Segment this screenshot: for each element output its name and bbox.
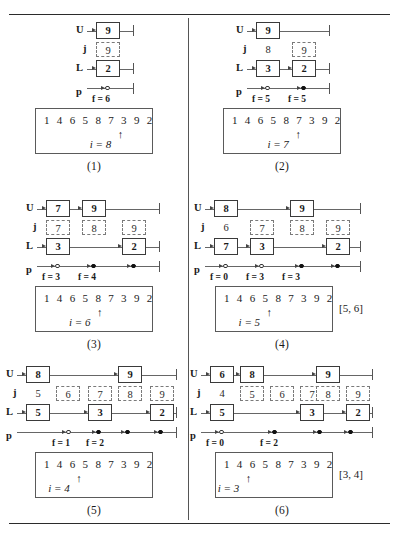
pointer-diagram: UjLp7978932f = 3f = 4 bbox=[0, 194, 188, 286]
j-cell: 6 bbox=[214, 220, 238, 235]
line-end-tick bbox=[159, 203, 160, 214]
connector-line bbox=[17, 432, 66, 433]
panel-grid: UjLp992f = 61 4 6 5 8 7 3 9 2↑i = 8(1)Uj… bbox=[0, 16, 399, 522]
row-label-u: U bbox=[236, 24, 244, 35]
p-marker-filled bbox=[272, 430, 277, 435]
line-end-tick bbox=[360, 241, 361, 252]
line-end-tick bbox=[329, 63, 330, 74]
panel-caption: (2) bbox=[188, 160, 376, 172]
array-state: 1 4 6 5 8 7 3 9 2↑i = 3[3, 4] bbox=[188, 452, 376, 504]
connector-line bbox=[112, 413, 150, 414]
array-index-arrow-icon: ↑ bbox=[97, 308, 103, 316]
u-cell: 6 bbox=[210, 366, 234, 383]
pointer-diagram: UjLp98932f = 5f = 5 bbox=[188, 16, 376, 108]
figure-panel-3: UjLp7978932f = 3f = 41 4 6 5 8 7 3 9 2↑i… bbox=[0, 194, 188, 350]
line-end-tick bbox=[176, 427, 177, 438]
line-end-tick bbox=[159, 261, 160, 272]
row-label-j: j bbox=[243, 43, 247, 54]
array-index-label: i = 4 bbox=[48, 482, 69, 494]
line-end-tick bbox=[360, 203, 361, 214]
j-cell: 9 bbox=[96, 42, 120, 57]
p-marker-filled bbox=[299, 264, 304, 269]
array-state: 1 4 6 5 8 7 3 9 2↑i = 4 bbox=[0, 452, 188, 504]
p-marker-filled bbox=[317, 430, 322, 435]
p-marker-filled bbox=[131, 264, 136, 269]
line-end-tick bbox=[159, 241, 160, 252]
u-cell: 7 bbox=[46, 200, 70, 217]
connector-line bbox=[340, 266, 360, 267]
line-end-tick bbox=[372, 407, 373, 418]
f-value-label: f = 5 bbox=[252, 94, 270, 104]
p-marker-open bbox=[265, 86, 270, 91]
f-value-label: f = 1 bbox=[52, 438, 70, 448]
connector-line bbox=[106, 209, 159, 210]
connector-line bbox=[50, 413, 88, 414]
connector-line bbox=[306, 88, 329, 89]
panel-caption: (6) bbox=[188, 504, 376, 516]
p-marker-filled bbox=[91, 264, 96, 269]
f-value-label: f = 4 bbox=[78, 272, 96, 282]
range-annotation: [3, 4] bbox=[339, 468, 363, 480]
panel-caption: (4) bbox=[188, 338, 376, 350]
row-label-u: U bbox=[190, 368, 198, 379]
f-value-label: f = 0 bbox=[206, 438, 224, 448]
array-index-label: i = 5 bbox=[239, 316, 260, 328]
j-cell: 7 bbox=[250, 220, 274, 235]
j-cell: 9 bbox=[292, 42, 316, 57]
connector-line bbox=[350, 247, 360, 248]
row-label-j: j bbox=[197, 387, 201, 398]
array-state: 1 4 6 5 8 7 3 9 2↑i = 5[5, 6] bbox=[188, 286, 376, 338]
j-cell: 5 bbox=[240, 386, 264, 401]
l-cell: 3 bbox=[300, 404, 324, 421]
j-cell: 9 bbox=[122, 220, 146, 235]
row-label-p: p bbox=[76, 86, 82, 97]
row-label-p: p bbox=[194, 264, 200, 275]
u-cell: 9 bbox=[316, 366, 340, 383]
array-index-label: i = 3 bbox=[218, 482, 239, 494]
connector-line bbox=[274, 247, 326, 248]
f-value-label: f = 6 bbox=[92, 94, 110, 104]
row-label-l: L bbox=[26, 240, 33, 251]
l-cell: 5 bbox=[26, 404, 50, 421]
array-index-arrow-icon: ↑ bbox=[118, 130, 124, 138]
connector-line bbox=[314, 209, 360, 210]
row-label-u: U bbox=[76, 24, 84, 35]
j-cell: 6 bbox=[56, 386, 80, 401]
figure-panel-6: UjLp689456789532f = 0f = 21 4 6 5 8 7 3 … bbox=[188, 360, 376, 516]
f-value-label: f = 2 bbox=[260, 438, 278, 448]
p-marker-filled bbox=[158, 430, 163, 435]
l-cell: 2 bbox=[346, 404, 370, 421]
array-values: 1 4 6 5 8 7 3 9 2 bbox=[44, 458, 155, 470]
connector-line bbox=[96, 266, 131, 267]
array-index-label: i = 8 bbox=[90, 138, 111, 150]
p-marker-open bbox=[259, 264, 264, 269]
j-cell: 8 bbox=[118, 386, 142, 401]
p-marker-filled bbox=[335, 264, 340, 269]
j-cell: 7 bbox=[88, 386, 112, 401]
connector-line bbox=[142, 375, 176, 376]
u-cell: 8 bbox=[240, 366, 264, 383]
row-label-p: p bbox=[6, 430, 12, 441]
row-label-l: L bbox=[236, 62, 243, 73]
line-end-tick bbox=[133, 63, 134, 74]
u-cell: 8 bbox=[26, 366, 50, 383]
panel-caption: (5) bbox=[0, 504, 188, 516]
connector-line bbox=[50, 375, 118, 376]
j-cell: 8 bbox=[82, 220, 106, 235]
l-cell: 3 bbox=[256, 60, 280, 77]
j-cell: 8 bbox=[316, 386, 340, 401]
connector-line bbox=[224, 432, 272, 433]
f-value-label: f = 2 bbox=[86, 438, 104, 448]
j-cell: 9 bbox=[326, 220, 350, 235]
row-label-p: p bbox=[236, 86, 242, 97]
p-marker-filled bbox=[348, 430, 353, 435]
array-index-arrow-icon: ↑ bbox=[246, 474, 252, 482]
line-end-tick bbox=[372, 427, 373, 438]
row-label-j: j bbox=[201, 221, 205, 232]
array-state: 1 4 6 5 8 7 3 9 2↑i = 7 bbox=[188, 108, 376, 160]
connector-line bbox=[280, 31, 329, 32]
f-value-label: f = 5 bbox=[288, 94, 306, 104]
row-label-l: L bbox=[194, 240, 201, 251]
j-cell: 6 bbox=[270, 386, 294, 401]
array-index-label: i = 7 bbox=[267, 138, 288, 150]
